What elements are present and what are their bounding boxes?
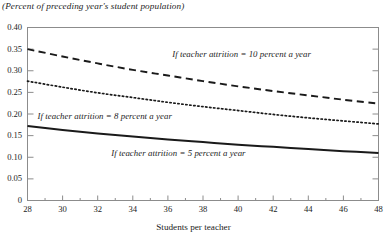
- y-tick-label: 0.25: [0, 87, 22, 97]
- y-tick-label: 0.20: [0, 109, 22, 119]
- series-annotation-2: If teacher attrition = 8 percent a year: [38, 111, 172, 121]
- x-tick-label: 44: [300, 204, 316, 214]
- chart-figure: (Percent of preceding year's student pop…: [0, 0, 387, 241]
- x-tick-label: 48: [371, 204, 387, 214]
- x-axis-title: Students per teacher: [0, 222, 387, 232]
- series-annotation-3: If teacher attrition = 5 percent a year: [111, 148, 245, 158]
- x-tick-label: 28: [20, 204, 36, 214]
- x-tick-label: 42: [265, 204, 281, 214]
- x-tick-label: 34: [125, 204, 141, 214]
- y-tick-label: 0.10: [0, 152, 22, 162]
- x-tick-label: 32: [90, 204, 106, 214]
- y-tick-label: 0.15: [0, 130, 22, 140]
- y-tick-label: 0.05: [0, 173, 22, 183]
- x-tick-label: 38: [195, 204, 211, 214]
- y-tick-label: 0.30: [0, 65, 22, 75]
- x-tick-label: 46: [335, 204, 351, 214]
- y-tick-label: 0.35: [0, 44, 22, 54]
- y-tick-label: 0.40: [0, 22, 22, 32]
- x-tick-label: 30: [55, 204, 71, 214]
- series-annotation-1: If teacher attrition = 10 percent a year: [172, 49, 311, 59]
- x-tick-label: 40: [230, 204, 246, 214]
- series-lines: [28, 49, 379, 153]
- x-tick-label: 36: [160, 204, 176, 214]
